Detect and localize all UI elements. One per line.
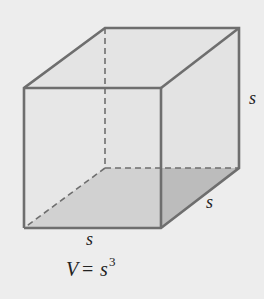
formula-lhs: V [66, 258, 81, 280]
volume-formula: V = s 3 [66, 254, 116, 280]
height-label: s [249, 88, 256, 108]
formula-equals: = [82, 258, 93, 280]
formula-base: s [100, 258, 108, 280]
depth-label: s [206, 192, 213, 212]
cube-front-face [24, 88, 161, 228]
formula-exponent: 3 [109, 254, 116, 269]
width-label: s [86, 229, 93, 249]
cube-diagram: s s s V = s 3 [0, 0, 264, 299]
